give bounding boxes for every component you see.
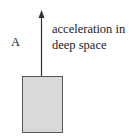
caption-line-2: deep space xyxy=(52,38,106,53)
diagram-graphics xyxy=(0,0,137,139)
label-a: A xyxy=(11,35,20,50)
caption-line-1: acceleration in xyxy=(52,22,125,37)
arrow-up-icon xyxy=(39,10,45,18)
block xyxy=(23,77,63,133)
diagram: A acceleration in deep space xyxy=(0,0,137,139)
